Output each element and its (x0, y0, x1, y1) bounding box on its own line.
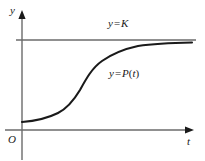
curve-label: y=P(t) (109, 68, 139, 79)
asymptote-label: y=K (108, 18, 128, 29)
y-axis-group (18, 10, 25, 160)
origin-label: O (8, 134, 16, 145)
curve-label-function: P (122, 67, 129, 79)
y-axis-arrowhead (18, 10, 25, 19)
curve-label-operator: = (114, 67, 122, 79)
y-axis-label: y (10, 5, 15, 16)
logistic-plot-canvas (0, 0, 205, 161)
t-axis-label: t (187, 136, 190, 147)
asymptote-label-value: K (121, 17, 128, 29)
asymptote-label-operator: = (113, 17, 121, 29)
logistic-growth-figure: y t O y=K y=P(t) (0, 0, 205, 161)
t-axis-arrowhead (185, 126, 194, 133)
t-axis-group (5, 126, 194, 133)
curve-label-close-paren: ) (136, 67, 140, 79)
logistic-curve (22, 43, 192, 123)
